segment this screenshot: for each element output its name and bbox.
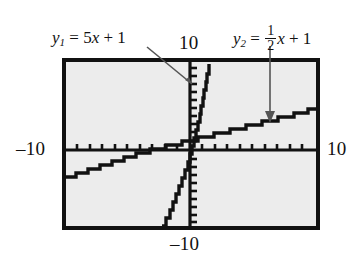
- y2-fraction-numerator: 1: [265, 24, 276, 38]
- figure-container: 10 –10 10 –10 y1 = 5x + 1 y2 = 1 2 x + 1: [0, 0, 357, 263]
- y2-equation-label: y2 = 1 2 x + 1: [233, 24, 311, 54]
- y1-equals: =: [69, 28, 79, 47]
- y1-intercept: 1: [117, 28, 126, 47]
- y2-fraction-denominator: 2: [265, 38, 276, 53]
- y1-variable: y: [52, 28, 60, 47]
- y1-equation-label: y1 = 5x + 1: [52, 29, 126, 48]
- y2-variable: y: [233, 29, 241, 48]
- axis-label-top: 10: [179, 33, 199, 52]
- y2-subscript: 2: [241, 37, 247, 49]
- axis-label-bottom: –10: [170, 234, 199, 253]
- y2-equals: =: [250, 29, 260, 48]
- axis-label-left: –10: [16, 139, 45, 158]
- y2-plus: +: [289, 29, 299, 48]
- y2-fraction: 1 2: [265, 24, 276, 54]
- y2-x-variable: x: [277, 29, 285, 48]
- y1-x-variable: x: [92, 28, 100, 47]
- axis-label-right: 10: [327, 139, 347, 158]
- y2-intercept: 1: [303, 29, 312, 48]
- y1-plus: +: [103, 28, 113, 47]
- y1-slope: 5: [83, 28, 92, 47]
- y1-subscript: 1: [60, 36, 66, 48]
